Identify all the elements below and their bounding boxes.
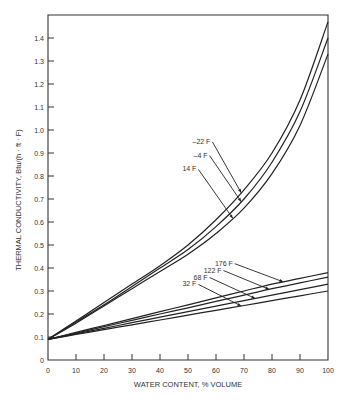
x-tick-label: 0 bbox=[46, 367, 50, 374]
arrow-line bbox=[198, 169, 232, 218]
curve-14f bbox=[48, 54, 328, 339]
y-axis-label: THERMAL CONDUCTIVITY, Btu/(h · ft · F) bbox=[14, 129, 23, 271]
y-tick-label: 0 bbox=[40, 357, 44, 364]
y-tick-label: 1.3 bbox=[34, 58, 44, 65]
arrowhead-icon bbox=[238, 198, 241, 202]
arrowhead-icon bbox=[279, 279, 283, 282]
y-tick-label: 1.1 bbox=[34, 104, 44, 111]
x-axis-label: WATER CONTENT, % VOLUME bbox=[134, 380, 242, 389]
arrow-line bbox=[212, 142, 241, 193]
thermal-conductivity-chart: 00.10.20.30.40.50.60.70.80.91.01.11.21.3… bbox=[0, 0, 349, 403]
x-tick-label: 90 bbox=[296, 367, 304, 374]
x-tick-label: 80 bbox=[268, 367, 276, 374]
y-tick-label: 0.1 bbox=[34, 334, 44, 341]
y-axis-ticks: 00.10.20.30.40.50.60.70.80.91.01.11.21.3… bbox=[34, 35, 54, 364]
x-tick-label: 20 bbox=[100, 367, 108, 374]
arrow-line bbox=[224, 271, 270, 290]
x-tick-label: 60 bbox=[212, 367, 220, 374]
y-tick-label: 1.2 bbox=[34, 81, 44, 88]
y-tick-label: 0.7 bbox=[34, 196, 44, 203]
curve-label: 14 F bbox=[182, 165, 196, 172]
curve-labels: –22 F–4 F14 F176 F122 F68 F32 F bbox=[182, 138, 283, 306]
y-tick-label: 0.4 bbox=[34, 265, 44, 272]
y-tick-label: 0.2 bbox=[34, 311, 44, 318]
data-curves bbox=[48, 22, 328, 339]
curve-label: –22 F bbox=[192, 138, 210, 145]
y-tick-label: 0.3 bbox=[34, 288, 44, 295]
x-tick-label: 50 bbox=[184, 367, 192, 374]
curve-minus22f bbox=[48, 22, 328, 339]
curve-label: –4 F bbox=[194, 152, 208, 159]
curve-minus4f bbox=[48, 38, 328, 339]
arrow-line bbox=[198, 284, 241, 306]
y-tick-label: 1.4 bbox=[34, 35, 44, 42]
x-axis-ticks: 0102030405060708090100 bbox=[46, 354, 334, 374]
arrow-line bbox=[210, 156, 242, 202]
x-tick-label: 10 bbox=[72, 367, 80, 374]
x-tick-label: 40 bbox=[156, 367, 164, 374]
arrowhead-icon bbox=[265, 287, 269, 290]
y-tick-label: 0.6 bbox=[34, 219, 44, 226]
curve-label: 32 F bbox=[182, 280, 196, 287]
y-tick-label: 0.5 bbox=[34, 242, 44, 249]
x-tick-label: 70 bbox=[240, 367, 248, 374]
x-tick-label: 30 bbox=[128, 367, 136, 374]
y-tick-label: 0.8 bbox=[34, 173, 44, 180]
y-tick-label: 1.0 bbox=[34, 127, 44, 134]
y-tick-label: 0.9 bbox=[34, 150, 44, 157]
x-tick-label: 100 bbox=[322, 367, 334, 374]
arrow-line bbox=[235, 264, 283, 282]
